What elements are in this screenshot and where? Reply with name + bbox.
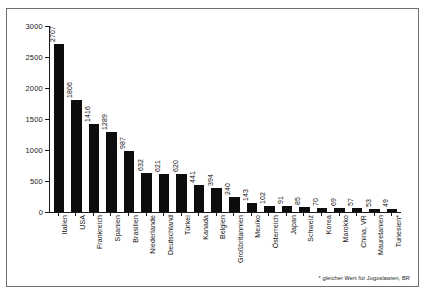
bar-value-label: 53 — [364, 199, 371, 207]
bar-value-label: 1289 — [101, 114, 108, 130]
y-tick — [45, 212, 49, 213]
category-label: Mauretanien — [377, 215, 384, 255]
bar[interactable] — [229, 197, 240, 212]
y-tick — [45, 181, 49, 182]
category-label: Marokko — [342, 215, 349, 243]
y-tick-label: 1000 — [26, 146, 44, 155]
bar-value-label: 69 — [329, 198, 336, 206]
category-label: China, VR — [360, 215, 367, 248]
bar-group[interactable]: 53 — [369, 26, 380, 212]
chart-footnote: * gleicher Wert für Jugoslawien, BR — [319, 275, 410, 281]
bar-group[interactable]: 632 — [141, 26, 152, 212]
category-label: Belgien — [219, 215, 226, 239]
bar-value-label: 394 — [206, 174, 213, 186]
bar-group[interactable]: 102 — [264, 26, 275, 212]
x-axis-line — [49, 212, 401, 213]
category-label: Österreich — [272, 215, 279, 248]
bar-value-label: 85 — [294, 197, 301, 205]
bar[interactable] — [124, 151, 135, 212]
bar-value-label: 91 — [276, 196, 283, 204]
bar-group[interactable]: 441 — [194, 26, 205, 212]
category-label: Niederlande — [149, 215, 156, 254]
y-tick — [45, 88, 49, 89]
bar-group[interactable]: 69 — [334, 26, 345, 212]
bar-group[interactable]: 240 — [229, 26, 240, 212]
category-label: Brasilien — [132, 215, 139, 243]
bar-group[interactable]: 620 — [176, 26, 187, 212]
bar-value-label: 441 — [189, 171, 196, 183]
category-label: Japan — [290, 215, 297, 235]
category-label: Tunesien* — [395, 215, 402, 247]
bar-group[interactable]: 1806 — [71, 26, 82, 212]
category-label: Schweiz — [307, 215, 314, 242]
bar-value-label: 987 — [118, 137, 125, 149]
y-tick-label: 500 — [30, 177, 43, 186]
y-tick — [45, 150, 49, 151]
bar-value-label: 2707 — [48, 26, 55, 42]
bar[interactable] — [71, 100, 82, 212]
bar-value-label: 70 — [312, 198, 319, 206]
bar-value-label: 102 — [259, 192, 266, 204]
bar-group[interactable]: 2707 — [54, 26, 65, 212]
bar-group[interactable]: 70 — [317, 26, 328, 212]
bar-value-label: 620 — [171, 160, 178, 172]
category-label: Frankreich — [96, 215, 103, 249]
bar-group[interactable]: 1416 — [89, 26, 100, 212]
bar-group[interactable]: 57 — [352, 26, 363, 212]
bar-value-label: 621 — [154, 160, 161, 172]
bar-group[interactable]: 621 — [159, 26, 170, 212]
y-tick-label: 1500 — [26, 115, 44, 124]
bar[interactable] — [141, 173, 152, 212]
y-tick-label: 2500 — [26, 53, 44, 62]
bar-value-label: 632 — [136, 159, 143, 171]
bar-value-label: 1806 — [66, 82, 73, 98]
bar-group[interactable]: 1289 — [106, 26, 117, 212]
bar-value-label: 49 — [382, 199, 389, 207]
bar-group[interactable]: 91 — [282, 26, 293, 212]
bar[interactable] — [211, 188, 222, 212]
category-label: Großbritannien — [237, 215, 244, 263]
category-label: Deutschland — [167, 215, 174, 255]
bar[interactable] — [247, 203, 258, 212]
bar-value-label: 57 — [347, 198, 354, 206]
y-tick — [45, 57, 49, 58]
category-label: Mexiko — [254, 215, 261, 238]
y-tick — [45, 119, 49, 120]
y-tick-label: 3000 — [26, 22, 44, 31]
category-label: Spanien — [114, 215, 121, 241]
bar[interactable] — [194, 185, 205, 212]
category-labels: ItalienUSAFrankreichSpanienBrasilienNied… — [50, 215, 401, 281]
bar[interactable] — [176, 174, 187, 212]
category-label: Türkei — [184, 215, 191, 235]
category-label: Italien — [61, 215, 68, 234]
category-label: Kanada — [202, 215, 209, 240]
bar-value-label: 1416 — [83, 106, 90, 122]
bar-group[interactable]: 987 — [124, 26, 135, 212]
y-tick-label: 2000 — [26, 84, 44, 93]
bar[interactable] — [106, 132, 117, 212]
bar[interactable] — [159, 174, 170, 213]
bar-group[interactable]: 49 — [387, 26, 398, 212]
bar[interactable] — [54, 44, 65, 212]
y-tick-label: 0 — [39, 208, 43, 217]
bar-value-label: 240 — [224, 183, 231, 195]
category-label: USA — [79, 215, 86, 230]
plot-area: 050010001500200025003000 270718061416128… — [49, 26, 401, 212]
bar-group[interactable]: 85 — [299, 26, 310, 212]
bar-series: 2707180614161289987632621620441394240143… — [50, 26, 401, 212]
bar-value-label: 143 — [241, 189, 248, 201]
category-label: Korea — [325, 215, 332, 234]
bar-group[interactable]: 394 — [211, 26, 222, 212]
bar-group[interactable]: 143 — [247, 26, 258, 212]
bar[interactable] — [89, 124, 100, 212]
chart-figure: 050010001500200025003000 270718061416128… — [6, 8, 419, 287]
